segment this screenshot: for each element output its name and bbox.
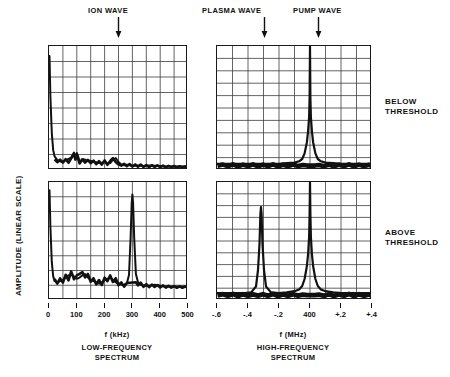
spectrum-figure: ION WAVE PLASMA WAVE PUMP WAVE AMPLITUDE…: [0, 0, 450, 377]
row-label-below-line1: BELOW: [385, 97, 438, 107]
tick-label-left-0: 0: [46, 310, 50, 319]
panel-bl-plot: [49, 182, 187, 299]
tick-mark-left-400: [159, 303, 160, 308]
annotation-label-plasma-wave: PLASMA WAVE: [202, 6, 261, 15]
panel-tl-plot: [49, 46, 187, 169]
y-axis-title: AMPLITUDE (LINEAR SCALE): [14, 175, 23, 296]
panel-br-grid: [217, 182, 371, 299]
tick-mark-right-m06: [216, 303, 217, 308]
panel-low-frequency-below-threshold: [48, 45, 187, 169]
tick-mark-right-m04: [247, 303, 248, 308]
tick-label-left-100: 100: [70, 310, 83, 319]
left-caption-line2: SPECTRUM: [95, 353, 140, 362]
tick-label-left-200: 200: [98, 310, 111, 319]
panel-tr-plot: [217, 46, 371, 169]
row-label-below-threshold: BELOW THRESHOLD: [385, 97, 438, 117]
row-label-above-line1: ABOVE: [385, 228, 438, 238]
tick-mark-right-m02: [278, 303, 279, 308]
tick-label-right-p02: +.2: [335, 310, 346, 319]
row-label-above-threshold: ABOVE THRESHOLD: [385, 228, 438, 248]
ion-wave-arrow-icon: [114, 17, 123, 39]
tick-label-left-300: 300: [126, 310, 139, 319]
tick-label-right-p04: +.4: [366, 310, 377, 319]
tick-mark-right-p04: [371, 303, 372, 308]
tick-mark-right-400: [309, 303, 310, 308]
panel-high-frequency-below-threshold: [216, 45, 371, 169]
row-label-below-line2: THRESHOLD: [385, 107, 438, 117]
panel-high-frequency-above-threshold: [216, 181, 371, 299]
tick-label-right-m02: -.2: [274, 310, 283, 319]
right-caption-line2: SPECTRUM: [271, 353, 316, 362]
left-caption-line1: LOW-FREQUENCY: [82, 343, 153, 352]
tick-mark-left-500: [187, 303, 188, 308]
plasma-wave-arrow-icon: [260, 17, 269, 39]
panel-br-plot: [217, 182, 371, 299]
panel-tl-noise-floor: [55, 154, 187, 167]
annotation-label-pump-wave: PUMP WAVE: [293, 6, 342, 15]
tick-mark-left-300: [131, 303, 132, 308]
tick-mark-right-p02: [340, 303, 341, 308]
tick-mark-left-0: [48, 303, 49, 308]
panel-br-noise-floor: [218, 294, 372, 296]
tick-label-left-400: 400: [153, 310, 166, 319]
row-label-above-line2: THRESHOLD: [385, 238, 438, 248]
tick-label-right-400: 400: [303, 310, 316, 319]
annotation-label-ion-wave: ION WAVE: [88, 6, 128, 15]
pump-wave-arrow-icon: [314, 17, 323, 39]
panel-tl-grid: [49, 46, 187, 169]
panel-tr-grid: [217, 46, 371, 169]
right-caption-line1: HIGH-FREQUENCY: [257, 343, 330, 352]
left-axis-title: f (kHz): [104, 330, 129, 339]
tick-label-left-500: 500: [181, 310, 194, 319]
tick-mark-left-100: [76, 303, 77, 308]
tick-mark-left-200: [104, 303, 105, 308]
panel-tr-noise-floor: [218, 164, 372, 166]
right-axis-title: f (MHz): [279, 330, 306, 339]
tick-label-right-m04: -.4: [243, 310, 252, 319]
tick-label-right-m06: -.6: [212, 310, 221, 319]
panel-low-frequency-above-threshold: [48, 181, 187, 299]
